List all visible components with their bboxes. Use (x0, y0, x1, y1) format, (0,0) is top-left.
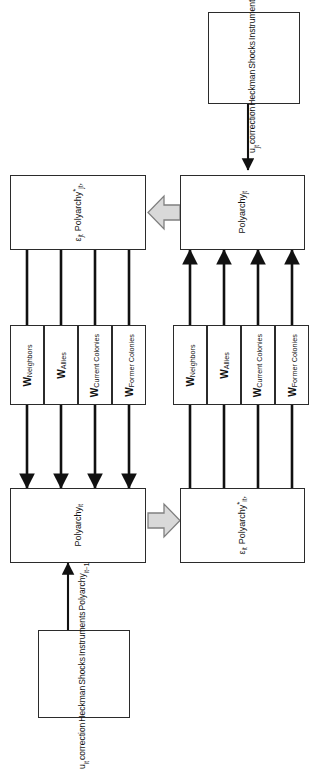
instruments-i-line6-sub: it (83, 761, 90, 764)
box-instruments-j: Polyarchyjt−1 Instruments Shocks Heckman… (208, 12, 300, 104)
instruments-i-line5: correction (77, 723, 87, 760)
polyarchy-jt-text: Polyarchyjt (237, 191, 248, 234)
polyarchy-star-it-sub: it (241, 499, 248, 502)
epsilon-jt-label: εjt (73, 235, 83, 242)
weight-cell-right-former-colonies: WFormer Colonies (275, 325, 309, 405)
box-instruments-i: Polyarchyit−1 Instruments Shocks Heckman… (38, 630, 130, 718)
arrows-left-top-to-weights (27, 250, 129, 325)
instruments-j-line4: Heckman (247, 70, 257, 106)
instruments-j-text: Polyarchyjt−1 Instruments Shocks Heckman… (247, 0, 261, 169)
weight-right-label-1: WAllies (218, 352, 229, 379)
polyarchy-star-it-text: Polyarchy*it, εit (237, 496, 248, 554)
weight-right-label-2: WCurrent Colonies (253, 333, 264, 396)
weight-cell-left-allies: WAllies (44, 325, 78, 405)
epsilon-it-sub: it (241, 548, 248, 551)
box-polyarchy-it: Polyarchyit (10, 488, 146, 563)
weight-cell-right-allies: WAllies (207, 325, 241, 405)
arrows-weights-to-left-bottom (27, 405, 129, 488)
epsilon-jt-sub: jt (77, 235, 84, 238)
polyarchy-star-jt-label: Polyarchy*jt, (73, 183, 84, 231)
polyarchy-it-label: Polyarchyit (73, 504, 84, 547)
instruments-j-line2: Instruments (247, 0, 257, 40)
instruments-i-line6: uit (77, 761, 91, 773)
epsilon-it-label: εit (237, 548, 247, 555)
instruments-i-line1: Polyarchyit−1 (77, 563, 91, 611)
weight-cell-right-current-colonies: WCurrent Colonies (241, 325, 275, 405)
instruments-j-line5: correction (247, 107, 257, 144)
instruments-i-line1-sub: it−1 (83, 563, 90, 573)
instruments-i-text: Polyarchyit−1 Instruments Shocks Heckman… (77, 563, 91, 773)
weight-left-label-2: WCurrent Colonies (90, 333, 101, 396)
instruments-j-line6-sub: jt (253, 145, 260, 148)
polyarchy-it-text: Polyarchyit (73, 504, 84, 547)
box-polyarchy-star-jt: Polyarchy*jt, εjt (10, 175, 146, 250)
polyarchy-star-jt-sub: jt (77, 186, 84, 189)
weight-right-label-3: WFormer Colonies (287, 334, 298, 397)
weight-cell-right-neighbors: WNeighbors (173, 325, 207, 405)
polyarchy-jt-label: Polyarchyjt (237, 191, 248, 234)
weight-left-label-0: WNeighbors (22, 344, 33, 386)
polyarchy-star-it-label: Polyarchy*it, (237, 496, 248, 544)
arrows-right-bottom-to-weights (190, 405, 292, 488)
polyarchy-star-jt-text: Polyarchy*jt, εjt (73, 183, 84, 241)
weight-left-label-1: WAllies (55, 352, 66, 379)
instruments-i-line3: Shocks (77, 657, 87, 685)
block-arrow-right (148, 504, 180, 537)
arrows-weights-to-right-top (190, 250, 292, 325)
weight-right-label-0: WNeighbors (185, 344, 196, 386)
weight-cell-left-current-colonies: WCurrent Colonies (78, 325, 112, 405)
block-arrow-left (148, 196, 180, 229)
instruments-i-line4: Heckman (77, 686, 87, 722)
weight-cell-left-former-colonies: WFormer Colonies (112, 325, 146, 405)
weight-left-label-3: WFormer Colonies (124, 334, 135, 397)
instruments-j-line6: ujt (247, 145, 261, 169)
box-polyarchy-star-it: Polyarchy*it, εit (180, 488, 305, 563)
weight-cell-left-neighbors: WNeighbors (10, 325, 44, 405)
instruments-i-line2: Instruments (77, 612, 87, 656)
box-polyarchy-jt: Polyarchyjt (180, 175, 305, 250)
instruments-j-line3: Shocks (247, 41, 257, 69)
